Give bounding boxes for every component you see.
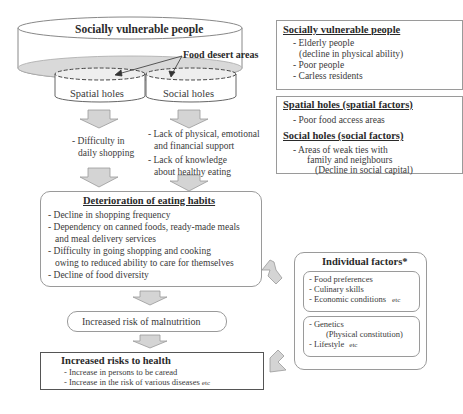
arrow-down-social: [170, 110, 208, 128]
legend-factors-box: Spatial holes (spatial factors) - Poor f…: [276, 96, 463, 174]
factor-item: - Culinary skills: [309, 284, 364, 294]
health-box: Increased risks to health - Increase in …: [40, 352, 264, 390]
health-item: - Increase in persons to be caread: [64, 367, 177, 377]
arrow-down-spatial-to-deterioration: [80, 168, 118, 187]
legend-item: - Poor people: [293, 60, 344, 72]
social-effect-line: - Lack of knowledge: [148, 155, 260, 167]
deterioration-box: Deterioration of eating habits - Decline…: [40, 191, 262, 287]
individual-factors-group-1: - Food preferences - Culinary skills - E…: [303, 271, 420, 312]
arrow-individual-to-deterioration: [262, 260, 282, 284]
vulnerable-people-title: Socially vulnerable people: [75, 24, 203, 36]
legend-vulnerable-box: Socially vulnerable people - Elderly peo…: [276, 20, 463, 90]
social-effect-line: and financial support: [154, 141, 266, 153]
arrow-individual-to-health: [270, 350, 286, 372]
deterioration-item: - Decline of food diversity: [48, 270, 149, 282]
deterioration-item: owing to reduced ability to care for the…: [55, 258, 234, 270]
legend-spatial-title: Spatial holes (spatial factors): [283, 99, 413, 111]
deterioration-item: and meal delivery services: [55, 234, 156, 246]
factor-item: (Physical constitution): [326, 329, 403, 339]
arrow-down-spatial: [80, 110, 118, 128]
factor-item-text: - Economic conditions: [309, 294, 386, 304]
health-title: Increased risks to health: [61, 355, 171, 367]
spatial-effect-line: daily shopping: [78, 148, 134, 160]
deterioration-item: - Dependency on canned foods, ready-made…: [48, 222, 240, 234]
etc-label: etc: [349, 341, 357, 349]
legend-item: - Elderly people: [293, 38, 354, 50]
social-effect-line: about healthy eating: [154, 167, 266, 179]
individual-factors-box: Individual factors* - Food preferences -…: [294, 252, 427, 370]
individual-factors-title: Individual factors*: [322, 256, 407, 268]
factor-item: - Lifestyle etc: [309, 339, 357, 350]
factor-item-text: - Lifestyle: [309, 339, 344, 349]
malnutrition-box: Increased risk of malnutrition: [67, 311, 227, 332]
legend-social-title: Social holes (social factors): [283, 130, 403, 142]
legend-item: - Carless residents: [293, 71, 363, 83]
health-item: - Increase in the risk of various diseas…: [64, 377, 210, 388]
spatial-effect-line: - Difficulty in: [72, 136, 128, 148]
factor-item: - Genetics: [309, 319, 344, 329]
etc-label: etc: [392, 296, 400, 304]
food-desert-label: Food desert areas: [183, 49, 258, 61]
individual-factors-group-2: - Genetics (Physical constitution) - Lif…: [303, 316, 420, 357]
legend-vulnerable-title: Socially vulnerable people: [283, 24, 400, 36]
social-effects: - Lack of physical, emotional and financ…: [148, 129, 260, 175]
deterioration-item: - Decline in shopping frequency: [48, 210, 170, 222]
factor-item: - Economic conditions etc: [309, 294, 400, 305]
health-item-text: - Increase in the risk of various diseas…: [64, 377, 200, 387]
spatial-effects: - Difficulty in daily shopping: [72, 136, 128, 159]
arrow-down-to-malnutrition: [133, 291, 167, 305]
social-holes-label: Social holes: [163, 88, 214, 100]
spatial-holes-label: Spatial holes: [70, 88, 124, 100]
malnutrition-label: Increased risk of malnutrition: [82, 316, 201, 328]
factor-item: - Food preferences: [309, 274, 373, 284]
social-effect-line: - Lack of physical, emotional: [148, 129, 260, 141]
deterioration-title: Deterioration of eating habits: [83, 195, 215, 207]
legend-item: - Poor food access areas: [293, 115, 385, 127]
legend-item: (decline in physical ability): [299, 49, 403, 61]
legend-item: (Decline in social capital): [315, 165, 413, 177]
etc-label: etc: [202, 379, 210, 387]
arrow-down-to-health: [133, 335, 167, 348]
deterioration-item: - Difficulty in going shopping and cooki…: [48, 246, 211, 258]
